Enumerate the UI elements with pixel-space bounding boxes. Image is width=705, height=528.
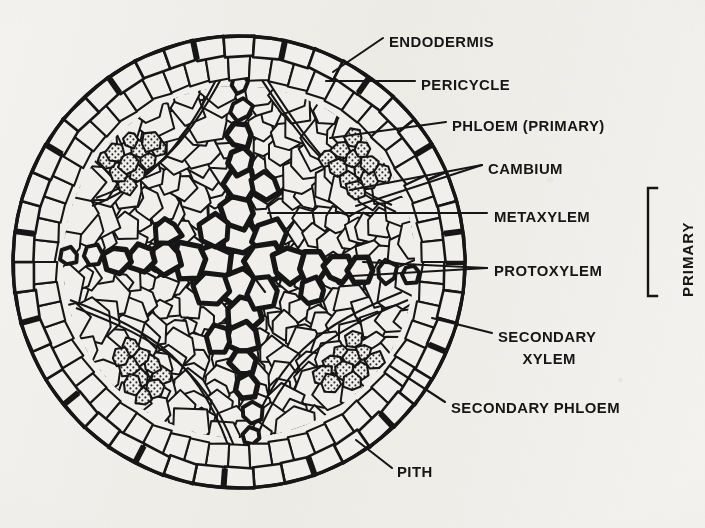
- phloem-cell: [345, 331, 362, 347]
- leader-endodermis: [333, 38, 383, 72]
- casparian-strip: [224, 469, 225, 487]
- phloem-cell: [124, 374, 142, 396]
- label-secondary-xylem-2: XYLEM: [522, 350, 575, 368]
- phloem-cell: [123, 133, 138, 149]
- endodermis-cell: [14, 262, 34, 293]
- label-primary-bracket: PRIMARY: [679, 222, 697, 297]
- phloem-cell: [142, 132, 161, 152]
- casparian-strip: [281, 42, 285, 60]
- metaxylem-vessel: [229, 351, 256, 374]
- phloem-cell: [355, 142, 371, 157]
- endodermis-cell: [224, 36, 255, 58]
- label-phloem-primary: PHLOEM (PRIMARY): [452, 117, 605, 135]
- protoxylem-vessel: [60, 247, 77, 264]
- phloem-cell: [321, 374, 341, 392]
- metaxylem-vessel: [129, 244, 155, 272]
- metaxylem-vessel: [301, 277, 324, 304]
- label-metaxylem: METAXYLEM: [494, 208, 590, 226]
- primary-bracket-path: [648, 188, 657, 296]
- casparian-strip: [16, 231, 34, 233]
- metaxylem-vessel: [206, 325, 229, 352]
- metaxylem-vessel: [193, 273, 230, 304]
- label-pith: PITH: [397, 463, 433, 481]
- phloem-cell: [374, 164, 391, 183]
- metaxylem-vessel: [228, 147, 253, 175]
- endodermis-cell: [224, 467, 255, 489]
- protoxylem-vessel: [243, 402, 263, 424]
- label-secondary-xylem-1: SECONDARY: [498, 328, 596, 346]
- label-endodermis: ENDODERMIS: [389, 33, 494, 51]
- phloem-cell: [113, 348, 130, 367]
- metaxylem-vessel: [347, 257, 373, 282]
- primary-bracket: [648, 188, 657, 296]
- label-secondary-phloem: SECONDARY PHLOEM: [451, 399, 620, 417]
- label-cambium: CAMBIUM: [488, 160, 563, 178]
- metaxylem-vessel: [247, 277, 277, 310]
- label-pericycle: PERICYCLE: [421, 76, 510, 94]
- protoxylem-vessel: [243, 427, 260, 444]
- label-protoxylem: PROTOXYLEM: [494, 262, 602, 280]
- metaxylem-vessel: [236, 373, 258, 398]
- protoxylem-vessel: [402, 266, 419, 284]
- casparian-strip: [444, 231, 462, 233]
- metaxylem-vessel: [103, 248, 131, 273]
- protoxylem-vessel: [84, 245, 103, 266]
- casparian-strip: [193, 42, 197, 60]
